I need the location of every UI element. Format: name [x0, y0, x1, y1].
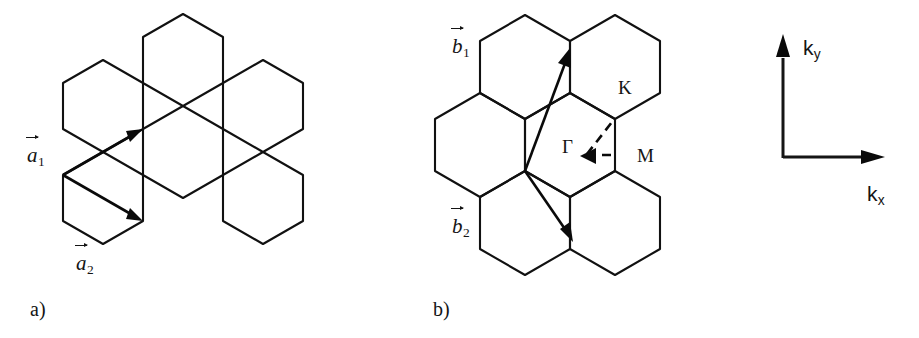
- kx-axis-label: kx: [867, 183, 885, 208]
- panel-b-reciprocal-lattice: b1 b2 Γ K M b): [390, 0, 750, 338]
- vector-label-a1: a1: [27, 145, 45, 168]
- k-axes-svg: [745, 0, 919, 260]
- brillouin-path-gamma-k: [587, 122, 612, 154]
- vector-label-b1: b1: [452, 36, 470, 59]
- panel-a-real-space-lattice: a1 a2 a): [0, 0, 400, 338]
- brillouin-path-arrowhead: [580, 148, 596, 164]
- ky-axis: [776, 34, 790, 158]
- vector-label-a2: a2: [76, 253, 94, 276]
- reciprocal-vector-b2: [525, 171, 573, 242]
- honeycomb-lattice-a: [63, 14, 303, 244]
- panel-a-lattice-svg: [0, 0, 400, 300]
- figure-root: a1 a2 a): [0, 0, 919, 338]
- lattice-vector-a2: [63, 175, 143, 221]
- symmetry-point-label-m: M: [637, 146, 654, 165]
- symmetry-point-label-gamma: Γ: [562, 137, 573, 156]
- ky-axis-label: ky: [803, 37, 821, 62]
- vector-label-b2: b2: [452, 216, 470, 239]
- kx-axis: [783, 150, 885, 164]
- panel-a-caption: a): [30, 299, 46, 319]
- symmetry-point-label-k: K: [618, 78, 632, 97]
- panel-b-caption: b): [433, 299, 450, 319]
- panel-k-axes: ky kx: [745, 0, 919, 338]
